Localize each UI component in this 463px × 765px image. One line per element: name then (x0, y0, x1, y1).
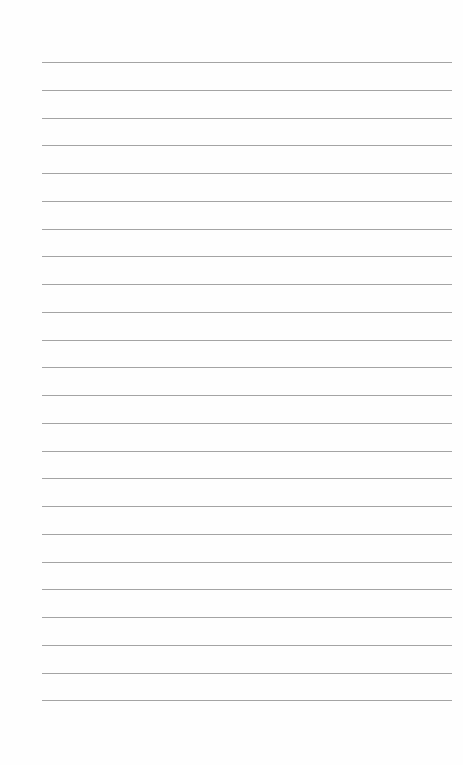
lined-paper-page (0, 0, 463, 765)
ruled-line (42, 589, 452, 590)
ruled-line (42, 562, 452, 563)
ruled-line (42, 118, 452, 119)
ruled-line (42, 534, 452, 535)
ruled-line (42, 506, 452, 507)
ruled-line (42, 90, 452, 91)
ruled-line (42, 229, 452, 230)
ruled-line (42, 312, 452, 313)
ruled-line (42, 673, 452, 674)
ruled-line (42, 367, 452, 368)
ruled-line (42, 201, 452, 202)
ruled-line (42, 62, 452, 63)
ruled-line (42, 478, 452, 479)
ruled-line (42, 256, 452, 257)
ruled-line (42, 284, 452, 285)
ruled-line (42, 645, 452, 646)
ruled-line (42, 451, 452, 452)
ruled-line (42, 173, 452, 174)
ruled-line (42, 423, 452, 424)
ruled-line (42, 340, 452, 341)
ruled-line (42, 395, 452, 396)
ruled-line (42, 145, 452, 146)
ruled-line (42, 617, 452, 618)
ruled-line (42, 700, 452, 701)
